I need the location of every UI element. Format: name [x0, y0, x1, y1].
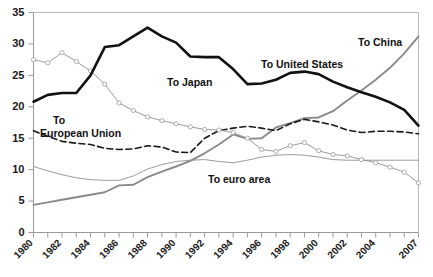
data-point-marker	[388, 165, 392, 169]
x-tick-label: 1998	[268, 237, 292, 261]
data-point-marker	[331, 152, 335, 156]
data-point-marker	[302, 141, 306, 145]
chart-canvas: 35302520151050 1980198219841986198819901…	[0, 0, 433, 277]
data-point-marker	[374, 161, 378, 165]
label-to-euro-area: To euro area	[208, 173, 270, 185]
data-point-marker	[402, 170, 406, 174]
x-tick-label: 1988	[125, 237, 149, 261]
x-tick-label: 2002	[325, 237, 349, 261]
x-tick-label: 1996	[240, 237, 264, 261]
data-point-marker	[117, 101, 121, 105]
y-tick-label: 10	[12, 163, 24, 175]
data-point-marker	[245, 136, 249, 140]
y-tick-label: 0	[18, 226, 24, 238]
x-axis-ticks: 1980198219841986198819901992199419961998…	[11, 233, 420, 261]
data-point-marker	[145, 115, 149, 119]
data-point-marker	[188, 125, 192, 129]
data-point-marker	[60, 51, 64, 55]
data-point-marker	[203, 127, 207, 131]
y-axis-ticks: 35302520151050	[12, 6, 33, 238]
line-chart: 35302520151050 1980198219841986198819901…	[0, 0, 433, 277]
y-tick-label: 30	[12, 37, 24, 49]
data-point-marker	[288, 144, 292, 148]
x-tick-label: 1982	[40, 237, 64, 261]
label-to-china: To China	[358, 36, 402, 48]
data-point-marker	[217, 128, 221, 132]
x-tick-label: 1986	[97, 237, 121, 261]
x-tick-label: 1994	[211, 237, 235, 261]
data-point-marker	[31, 58, 35, 62]
data-point-marker	[317, 149, 321, 153]
data-point-marker	[103, 82, 107, 86]
data-point-marker	[46, 61, 50, 65]
data-point-marker	[345, 154, 349, 158]
data-point-marker	[160, 119, 164, 123]
data-point-marker	[274, 149, 278, 153]
y-tick-label: 15	[12, 132, 24, 144]
x-tick-label: 2000	[297, 237, 321, 261]
data-point-marker	[260, 147, 264, 151]
x-tick-label: 1990	[154, 237, 178, 261]
x-tick-label: 1980	[11, 237, 35, 261]
x-tick-label: 1992	[183, 237, 207, 261]
label-to-european-union-line1: To	[53, 114, 65, 126]
y-tick-label: 20	[12, 100, 24, 112]
x-tick-label: 2004	[354, 237, 378, 261]
y-tick-label: 25	[12, 69, 24, 81]
label-to-united-states: To United States	[261, 58, 343, 70]
data-point-marker	[231, 130, 235, 134]
data-point-marker	[359, 157, 363, 161]
y-tick-label: 35	[12, 6, 24, 18]
data-point-marker	[131, 108, 135, 112]
y-tick-label: 5	[18, 194, 24, 206]
label-to-japan: To Japan	[167, 76, 212, 88]
label-to-european-union-line2: European Union	[40, 127, 121, 139]
x-tick-label: 1984	[68, 237, 92, 261]
data-point-marker	[416, 181, 420, 185]
data-point-marker	[74, 59, 78, 63]
x-tick-label: 2007	[396, 237, 420, 261]
data-point-marker	[174, 122, 178, 126]
